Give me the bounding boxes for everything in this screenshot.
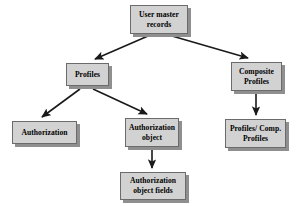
node-label: Authorization object fields xyxy=(123,176,183,195)
node-label: Profiles xyxy=(69,70,106,80)
node-authorization-object-fields[interactable]: Authorization object fields xyxy=(120,172,186,200)
node-authorization-object[interactable]: Authorization object xyxy=(125,118,179,147)
node-profiles-comp-profiles[interactable]: Profiles/ Comp. Profiles xyxy=(225,119,286,148)
node-authorization[interactable]: Authorization xyxy=(12,121,77,144)
node-label: Profiles/ Comp. Profiles xyxy=(228,124,283,143)
diagram-canvas: User master records Profiles Composite P… xyxy=(0,0,297,206)
node-label: Composite Profiles xyxy=(234,67,279,86)
edge-user-master-records-to-composite-profiles xyxy=(172,36,248,58)
node-composite-profiles[interactable]: Composite Profiles xyxy=(231,62,282,91)
edge-profiles-to-authorization xyxy=(42,89,80,117)
node-label: User master records xyxy=(133,10,185,29)
node-label: Authorization object xyxy=(128,123,176,142)
node-user-master-records[interactable]: User master records xyxy=(130,5,188,34)
edge-user-master-records-to-profiles xyxy=(95,36,148,59)
node-label: Authorization xyxy=(15,128,74,138)
node-profiles[interactable]: Profiles xyxy=(66,63,109,86)
edge-profiles-to-authorization-object xyxy=(93,89,147,114)
